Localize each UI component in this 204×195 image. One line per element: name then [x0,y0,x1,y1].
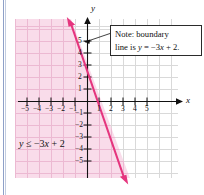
ineq-tail: + 2 [49,138,65,149]
y-tick-label: 3 [78,60,82,69]
x-tick-label: −4 [33,104,41,113]
note-line2-tail: + 2. [164,42,180,52]
note-line-2: line is y = −3x + 2. [115,41,198,54]
note-line2-pre: line is [115,42,138,52]
note-line-1: Note: boundary [115,28,198,41]
x-tick-label: −3 [45,104,53,113]
y-tick-label: −3 [75,132,83,141]
y-tick-label: 2 [78,72,82,81]
x-tick-label: 5 [145,104,149,113]
ineq-coef: −3 [34,138,45,149]
figure-root: x y −5 −4 −3 −2 −1 1 2 3 4 5 5 4 3 2 1 −… [0,0,204,195]
x-tick-label: 1 [97,104,101,113]
x-axis-label: x [186,95,190,105]
inequality-label: y ≤ −3x + 2 [19,138,65,149]
ineq-rel: ≤ [23,138,34,149]
x-tick-label: 4 [133,104,137,113]
y-tick-label: 4 [78,48,82,57]
x-tick-label: −2 [57,104,65,113]
x-tick-label: −5 [21,104,29,113]
y-tick-label: −5 [75,156,83,165]
note-line2-coef: −3 [151,42,160,52]
x-tick-label: 3 [121,104,125,113]
y-tick-label: −1 [75,108,83,117]
note-line2-eq: = [142,42,151,52]
y-tick-label: 1 [78,84,82,93]
note-callout-box: Note: boundary line is y = −3x + 2. [110,25,202,56]
y-tick-label: −2 [75,120,83,129]
y-tick-label: 5 [78,36,82,45]
y-tick-label: −4 [75,144,83,153]
x-tick-label: 2 [109,104,113,113]
y-axis-label: y [91,3,95,13]
